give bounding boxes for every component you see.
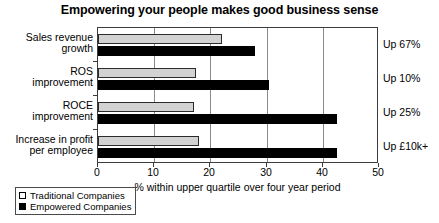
category-label: ROCEimprovement xyxy=(1,100,93,123)
legend-item: Traditional Companies xyxy=(19,190,131,201)
category-label-line: improvement xyxy=(1,77,93,89)
bar-traditional xyxy=(98,136,199,146)
y-axis-tick xyxy=(93,95,97,96)
category-label: Sales revenuegrowth xyxy=(1,32,93,55)
x-axis-tick-label: 30 xyxy=(246,166,286,178)
bar-group xyxy=(98,96,377,130)
bar-group xyxy=(98,28,377,62)
category-label-line: per employee xyxy=(1,145,93,157)
bar-empowered xyxy=(98,46,255,56)
growth-annotation: Up 25% xyxy=(383,106,439,118)
bar-traditional xyxy=(98,34,222,44)
growth-annotation: Up 67% xyxy=(383,38,439,50)
y-axis-tick xyxy=(93,61,97,62)
chart-container: Empowering your people makes good busine… xyxy=(0,0,439,223)
y-axis-category-labels: Sales revenuegrowthROSimprovementROCEimp… xyxy=(0,27,93,163)
bar-empowered xyxy=(98,148,337,158)
x-axis-tick-label: 20 xyxy=(189,166,229,178)
category-label-line: improvement xyxy=(1,111,93,123)
plot-area xyxy=(97,27,378,163)
x-axis-tick-label: 50 xyxy=(358,166,398,178)
bar-traditional xyxy=(98,102,194,112)
bar-group xyxy=(98,130,377,164)
legend-swatch-traditional xyxy=(19,192,26,199)
growth-annotations: Up 67%Up 10%Up 25%Up £10k+ xyxy=(383,27,439,163)
y-axis-tick xyxy=(93,129,97,130)
x-axis-tick-label: 10 xyxy=(133,166,173,178)
x-axis-tick-labels: 01020304050 xyxy=(0,166,439,180)
x-axis-tick-label: 40 xyxy=(302,166,342,178)
x-axis-tick-label: 0 xyxy=(77,166,117,178)
legend-label: Traditional Companies xyxy=(30,190,125,201)
category-label: ROSimprovement xyxy=(1,66,93,89)
category-label: Increase in profitper employee xyxy=(1,134,93,157)
legend-label: Empowered Companies xyxy=(30,201,131,212)
bar-empowered xyxy=(98,114,337,124)
chart-title: Empowering your people makes good busine… xyxy=(0,3,439,17)
bar-empowered xyxy=(98,80,269,90)
category-label-line: growth xyxy=(1,43,93,55)
x-axis-title: % within upper quartile over four year p… xyxy=(97,181,378,193)
chart-legend: Traditional CompaniesEmpowered Companies xyxy=(15,187,136,215)
legend-item: Empowered Companies xyxy=(19,201,131,212)
bar-traditional xyxy=(98,68,196,78)
growth-annotation: Up 10% xyxy=(383,72,439,84)
growth-annotation: Up £10k+ xyxy=(383,140,439,152)
legend-swatch-empowered xyxy=(19,203,26,210)
bar-group xyxy=(98,62,377,96)
